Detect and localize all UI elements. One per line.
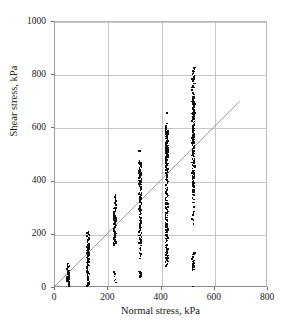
x-axis-tickmark bbox=[54, 287, 55, 290]
x-axis-title: Normal stress, kPa bbox=[54, 305, 267, 316]
x-axis-tick-label: 600 bbox=[194, 292, 234, 302]
x-axis-tickmark bbox=[107, 287, 108, 290]
scatter-chart-figure: Shear stress, kPa 02004006008001000 0200… bbox=[0, 0, 291, 336]
x-axis-tickmark bbox=[214, 287, 215, 290]
y-axis-tick-label: 400 bbox=[0, 175, 46, 185]
x-axis-tickmark bbox=[161, 287, 162, 290]
x-axis-tick-label: 0 bbox=[34, 292, 74, 302]
x-axis-tickmark bbox=[267, 287, 268, 290]
trend-line bbox=[55, 22, 266, 286]
x-axis-tick-label: 400 bbox=[141, 292, 181, 302]
y-axis-tickmark bbox=[51, 127, 54, 128]
x-axis-tick-label: 800 bbox=[247, 292, 287, 302]
y-axis-tickmark bbox=[51, 181, 54, 182]
y-axis-tickmark bbox=[51, 21, 54, 22]
y-axis-tick-label: 800 bbox=[0, 69, 46, 79]
trend-line-path bbox=[55, 101, 240, 286]
y-axis-tickmark bbox=[51, 74, 54, 75]
plot-area bbox=[54, 21, 267, 287]
y-axis-tick-label: 0 bbox=[0, 282, 46, 292]
y-axis-tick-label: 1000 bbox=[0, 16, 46, 26]
y-axis-tick-label: 200 bbox=[0, 228, 46, 238]
y-axis-tickmark bbox=[51, 234, 54, 235]
y-axis-tick-label: 600 bbox=[0, 122, 46, 132]
x-axis-tick-label: 200 bbox=[87, 292, 127, 302]
